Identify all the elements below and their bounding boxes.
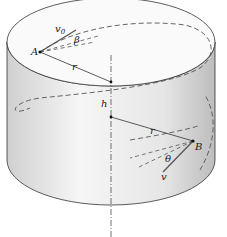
point-a-dot [38, 50, 41, 53]
cylinder-diagram: A B v0 β r h r θ v [0, 0, 227, 237]
label-point-b: B [194, 141, 202, 152]
center-top-dot [110, 81, 113, 84]
label-point-a: A [30, 46, 38, 57]
label-height: h [101, 98, 107, 109]
label-v: v [161, 171, 167, 182]
label-beta: β [73, 34, 80, 45]
cylinder-top [7, 0, 215, 86]
center-bottom-dot [110, 116, 113, 119]
label-theta: θ [165, 153, 171, 164]
